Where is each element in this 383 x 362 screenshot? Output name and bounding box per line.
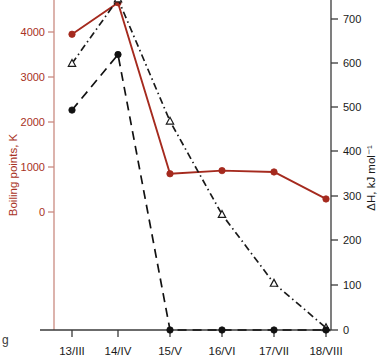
- right-axis-ticks: 700 600 500 400 300 200 100 0: [331, 13, 361, 336]
- chart-container: 4000 3000 2000 1000 0 Boiling points, K …: [0, 0, 383, 362]
- left-tick-label: 4000: [21, 26, 45, 38]
- data-point-filled-circle[interactable]: [323, 327, 329, 333]
- data-point-filled-circle[interactable]: [271, 169, 277, 175]
- data-point-filled-circle[interactable]: [271, 327, 277, 333]
- left-tick-label: 0: [39, 206, 45, 218]
- x-tick-label: 14/IV: [105, 345, 132, 357]
- right-tick-label: 600: [343, 57, 361, 69]
- right-tick-label: 400: [343, 145, 361, 157]
- x-axis-ticks: 13/III 14/IV 15/V 16/VI 17/VII 18/VIII: [59, 330, 342, 357]
- x-tick-label: 17/VII: [259, 345, 289, 357]
- right-tick-label: 200: [343, 234, 361, 246]
- left-tick-label: 2000: [21, 116, 45, 128]
- x-tick-label: 18/VIII: [309, 345, 342, 357]
- data-point-filled-circle[interactable]: [323, 196, 329, 202]
- data-point-filled-circle[interactable]: [69, 107, 75, 113]
- left-axis-title: Boiling points, K: [7, 133, 19, 216]
- plot-area-background: [54, 0, 331, 330]
- left-tick-label: 1000: [21, 161, 45, 173]
- data-point-open-triangle[interactable]: [114, 0, 121, 2]
- data-point-filled-circle[interactable]: [167, 171, 173, 177]
- right-tick-label: 300: [343, 190, 361, 202]
- line-chart: 4000 3000 2000 1000 0 Boiling points, K …: [0, 0, 383, 362]
- data-point-filled-circle[interactable]: [219, 327, 225, 333]
- x-tick-label: 16/VI: [209, 345, 236, 357]
- caption-fragment: g: [2, 333, 9, 347]
- data-point-filled-circle[interactable]: [69, 31, 75, 37]
- right-axis-title: ΔH, kJ mol⁻¹: [365, 145, 377, 211]
- left-tick-label: 3000: [21, 71, 45, 83]
- x-tick-label: 13/III: [59, 345, 85, 357]
- right-tick-label: 100: [343, 279, 361, 291]
- right-tick-label: 500: [343, 101, 361, 113]
- data-point-filled-circle[interactable]: [115, 51, 121, 57]
- data-point-filled-circle[interactable]: [219, 167, 225, 173]
- data-point-filled-circle[interactable]: [167, 327, 173, 333]
- left-axis-ticks: 4000 3000 2000 1000 0: [21, 26, 54, 218]
- right-tick-label: 700: [343, 13, 361, 25]
- x-tick-label: 15/V: [158, 345, 182, 357]
- right-tick-label: 0: [343, 324, 349, 336]
